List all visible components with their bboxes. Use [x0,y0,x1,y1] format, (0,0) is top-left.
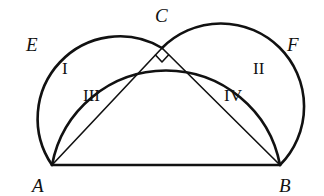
label-point-F: F [286,34,299,55]
label-region-III: III [83,86,100,105]
semicircle-arc-ACB [52,70,280,165]
label-point-A: A [30,175,44,196]
segment-AC [52,48,162,165]
label-point-C: C [155,5,168,26]
right-angle-marker [156,55,169,62]
geometry-diagram: C E F A B I II III IV [0,0,324,196]
label-point-E: E [25,34,38,55]
label-region-I: I [62,59,68,78]
label-point-B: B [279,175,291,196]
label-region-IV: IV [224,86,243,105]
label-region-II: II [253,59,265,78]
